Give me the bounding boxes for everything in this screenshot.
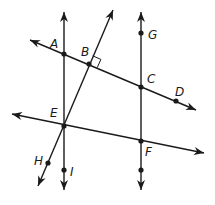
label-D: D: [175, 85, 184, 99]
right-angle-icon: [93, 56, 101, 68]
point-D: [173, 98, 178, 103]
point-E: [61, 123, 66, 128]
label-F: F: [145, 145, 153, 159]
label-H: H: [34, 154, 43, 168]
label-A: A: [49, 37, 58, 51]
right-angle-mark: [93, 56, 101, 68]
label-I: I: [70, 165, 74, 179]
point-F: [138, 138, 143, 143]
line-EF: [12, 114, 204, 153]
point-G: [138, 30, 143, 35]
label-B: B: [81, 45, 89, 59]
label-C: C: [147, 72, 156, 86]
labels-layer: A B C D E F G H I: [34, 28, 184, 179]
point-B: [86, 61, 91, 66]
label-G: G: [148, 28, 157, 42]
label-E: E: [50, 106, 58, 120]
point-I: [61, 167, 66, 172]
points-layer: [45, 30, 178, 172]
point-C: [138, 84, 143, 89]
point-A: [61, 51, 66, 56]
geometry-diagram: A B C D E F G H I: [0, 0, 215, 205]
point-H: [45, 160, 50, 165]
point-unlabeled: [138, 167, 143, 172]
